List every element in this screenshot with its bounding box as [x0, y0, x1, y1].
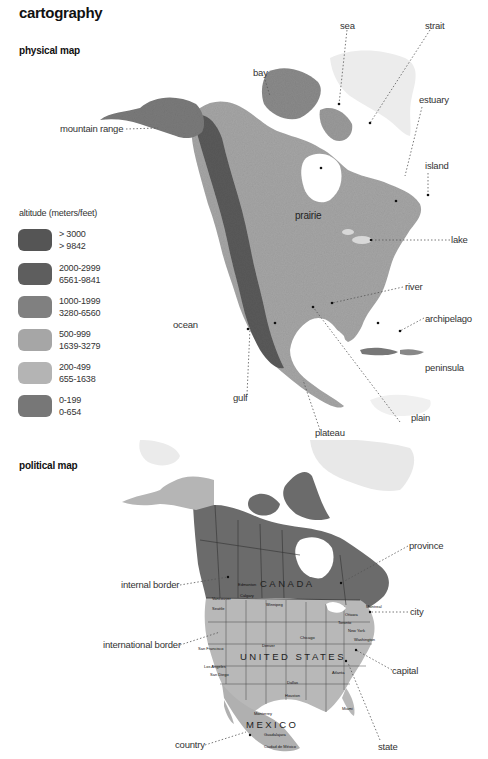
city-houston: Houston	[285, 693, 300, 698]
gulf-of-mexico	[296, 325, 345, 369]
city-dallas: Dallas	[287, 680, 298, 685]
legend-meters: 1000-1999	[59, 295, 100, 307]
legend-feet: > 9842	[59, 240, 86, 252]
legend-feet: 1639-3279	[59, 340, 100, 352]
city-san-francisco: San Francisco	[198, 646, 224, 651]
legend-meters: 500-999	[59, 328, 100, 340]
greenland-shape	[310, 440, 414, 491]
legend-meters: 2000-2999	[59, 262, 100, 274]
legend-swatch	[18, 395, 52, 417]
legend-meters: > 3000	[59, 228, 86, 240]
legend-feet: 3280-6560	[59, 307, 100, 319]
city-los-angeles: Los Angeles	[204, 664, 226, 669]
city-calgary: Calgary	[240, 593, 254, 598]
legend-swatch	[18, 263, 52, 285]
label-archipelago: archipelago	[425, 313, 472, 324]
legend-swatch	[18, 296, 52, 318]
city-new-york: New York	[348, 628, 365, 633]
city-montreal: Montreal	[366, 604, 382, 609]
label-state: state	[378, 741, 398, 752]
city-toronto: Toronto	[338, 620, 351, 625]
label-gulf: gulf	[233, 392, 248, 403]
label-peninsula: peninsula	[425, 362, 464, 373]
label-international-border: international border	[103, 639, 181, 650]
country-label-usa: UNITED STATES	[240, 651, 346, 662]
label-bay: bay	[253, 67, 268, 78]
legend-title: altitude (meters/feet)	[19, 208, 97, 218]
city-ottawa: Ottawa	[345, 612, 358, 617]
label-estuary: estuary	[419, 94, 449, 105]
city-atlanta: Atlanta	[332, 670, 344, 675]
legend-item: 1000-19993280-6560	[18, 295, 100, 319]
label-strait: strait	[425, 20, 444, 31]
label-country: country	[175, 739, 205, 750]
label-sea: sea	[340, 20, 355, 31]
alaska-shape	[122, 477, 214, 511]
label-island: island	[425, 160, 449, 171]
label-plain: plain	[411, 412, 430, 423]
label-province: province	[409, 540, 443, 551]
city-denver: Denver	[262, 643, 275, 648]
legend-swatch	[18, 229, 52, 251]
label-city: city	[410, 606, 423, 617]
label-lake: lake	[451, 234, 468, 245]
label-river: river	[405, 281, 422, 292]
label-ocean: ocean	[173, 319, 198, 330]
city-chicago: Chicago	[300, 635, 315, 640]
country-label-canada: CANADA	[260, 578, 315, 589]
legend-item: 500-9991639-3279	[18, 328, 100, 352]
city-guadalajara: Guadalajara	[264, 732, 286, 737]
country-label-mexico: MEXICO	[246, 719, 298, 730]
legend-feet: 0-654	[59, 406, 81, 418]
legend-item: 200-499655-1638	[18, 361, 95, 385]
city-miami: Miami	[342, 706, 353, 711]
city-edmonton: Edmonton	[238, 582, 256, 587]
label-prairie: prairie	[295, 210, 321, 221]
label-internal-border: internal border	[121, 579, 179, 590]
city-san-diego: San Diego	[210, 672, 229, 677]
political-map	[0, 440, 488, 759]
label-mountain-range: mountain range	[60, 123, 123, 134]
city-mexico-city: Ciudad de México	[264, 744, 296, 749]
legend-meters: 200-499	[59, 361, 95, 373]
legend-item: 0-1990-654	[18, 394, 81, 418]
city-winnipeg: Winnipeg	[266, 602, 283, 607]
legend-swatch	[18, 362, 52, 384]
city-monterrey: Monterrey	[254, 711, 272, 716]
legend-swatch	[18, 329, 52, 351]
label-plateau: plateau	[315, 427, 345, 438]
legend-item: > 3000> 9842	[18, 228, 86, 252]
label-capital: capital	[392, 665, 418, 676]
city-seattle: Seattle	[212, 606, 224, 611]
city-vancouver: Vancouver	[212, 596, 231, 601]
city-washington: Washington	[354, 637, 375, 642]
legend-item: 2000-29996561-9841	[18, 262, 100, 286]
legend-meters: 0-199	[59, 394, 81, 406]
legend-feet: 655-1638	[59, 373, 95, 385]
legend-feet: 6561-9841	[59, 274, 100, 286]
